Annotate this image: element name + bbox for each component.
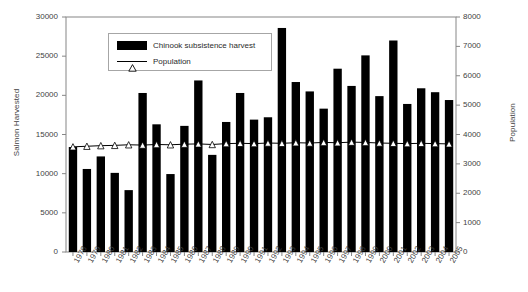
bar-1994 xyxy=(292,82,300,252)
y-right-tick-5000: 5000 xyxy=(463,100,497,109)
bar-1981 xyxy=(111,173,119,252)
bar-1983 xyxy=(138,93,146,252)
y-right-tick-1000: 1000 xyxy=(463,218,497,227)
y-right-tick-4000: 4000 xyxy=(463,130,497,139)
bar-1999 xyxy=(361,55,369,252)
bar-1982 xyxy=(125,190,133,252)
bar-1992 xyxy=(264,117,272,252)
bar-1979 xyxy=(83,169,91,252)
bar-1988 xyxy=(208,155,216,252)
legend-bar-swatch-icon xyxy=(117,41,147,50)
legend-item-harvest: Chinook subsistence harvest xyxy=(117,39,255,51)
y-right-tick-2000: 2000 xyxy=(463,188,497,197)
bar-2005 xyxy=(445,100,453,252)
y-left-tick-0: 0 xyxy=(24,247,58,256)
y-axis-right-title: Population xyxy=(508,83,517,163)
legend-label-harvest: Chinook subsistence harvest xyxy=(153,41,255,50)
bar-2004 xyxy=(431,92,439,252)
y-right-tick-7000: 7000 xyxy=(463,41,497,50)
y-right-tick-8000: 8000 xyxy=(463,12,497,21)
bar-1998 xyxy=(347,86,355,252)
y-axis-left-title: Salmon Harvested xyxy=(12,83,21,163)
y-right-tick-3000: 3000 xyxy=(463,159,497,168)
bar-1978 xyxy=(69,147,77,252)
legend-label-population: Population xyxy=(153,57,191,66)
bar-1987 xyxy=(194,80,202,252)
y-left-tick-15000: 15000 xyxy=(24,130,58,139)
bar-1995 xyxy=(306,91,314,252)
bar-1991 xyxy=(250,120,258,252)
legend-line-swatch-icon xyxy=(117,57,147,66)
bar-2003 xyxy=(417,88,425,252)
triangle-marker-icon xyxy=(128,64,137,72)
bar-1997 xyxy=(333,69,341,252)
bar-2002 xyxy=(403,104,411,252)
y-left-tick-30000: 30000 xyxy=(24,12,58,21)
bar-1996 xyxy=(320,109,328,252)
y-right-tick-6000: 6000 xyxy=(463,71,497,80)
chart-container: Salmon Harvested Population Chinook subs… xyxy=(0,0,528,292)
legend-item-population: Population xyxy=(117,55,191,67)
bar-1980 xyxy=(97,156,105,252)
chart-legend: Chinook subsistence harvest Population xyxy=(108,33,272,71)
y-left-tick-5000: 5000 xyxy=(24,208,58,217)
bar-1990 xyxy=(236,93,244,252)
bar-2000 xyxy=(375,96,383,252)
bar-1985 xyxy=(166,174,174,252)
y-left-tick-10000: 10000 xyxy=(24,169,58,178)
y-right-tick-0: 0 xyxy=(463,247,497,256)
y-left-tick-25000: 25000 xyxy=(24,51,58,60)
y-left-tick-20000: 20000 xyxy=(24,90,58,99)
